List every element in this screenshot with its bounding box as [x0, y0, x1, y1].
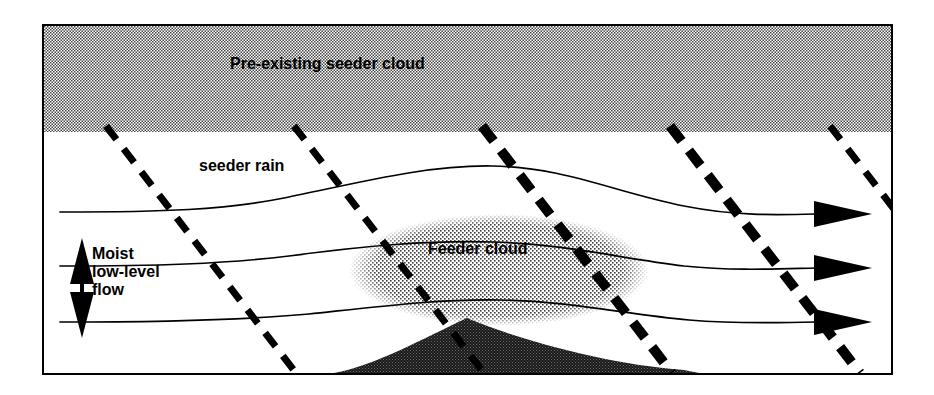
arrowhead-middle	[814, 255, 872, 281]
pre-existing-seeder-cloud-band	[44, 26, 891, 132]
diagram-canvas	[44, 26, 891, 373]
arrowhead-up	[70, 238, 94, 284]
flow-label-line-1: Moist	[92, 245, 160, 263]
streamline-arrowheads	[814, 201, 872, 335]
streamline-upper	[60, 166, 816, 215]
flow-label-line-2: low-level	[92, 263, 160, 281]
flow-label-line-3: flow	[92, 281, 160, 299]
arrowhead-upper	[814, 201, 872, 227]
mountain-terrain	[334, 318, 699, 373]
moist-low-level-flow-label: Moist low-level flow	[92, 245, 160, 299]
diagram-frame: Pre-existing seeder cloud seeder rain Fe…	[42, 24, 893, 375]
seeder-cloud-band-label: Pre-existing seeder cloud	[230, 55, 425, 73]
arrowhead-down	[70, 292, 94, 338]
seeder-feeder-diagram: Pre-existing seeder cloud seeder rain Fe…	[0, 0, 934, 395]
moist-flow-depth-arrow	[70, 238, 94, 338]
rain-dash-4	[670, 126, 860, 373]
seeder-rain-label: seeder rain	[199, 157, 284, 175]
feeder-cloud-label: Feeder cloud	[428, 240, 528, 258]
rain-dash-5	[830, 126, 891, 274]
